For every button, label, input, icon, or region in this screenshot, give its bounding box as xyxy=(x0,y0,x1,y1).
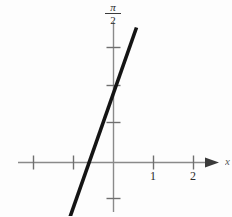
data-line-series xyxy=(70,28,137,217)
x-tick-label-1: 1 xyxy=(150,170,156,182)
y-axis-label-pi-over-2: π 2 xyxy=(101,1,125,27)
math-plot-figure: π 2 1 2 x xyxy=(0,0,232,216)
x-tick-label-2: 2 xyxy=(190,170,196,182)
y-axis-label-numerator: π xyxy=(101,1,125,13)
x-axis-variable-label: x xyxy=(225,155,232,167)
y-axis-label-denominator: 2 xyxy=(101,14,125,27)
x-axis-arrowhead xyxy=(205,158,219,168)
plot-canvas xyxy=(0,0,232,216)
